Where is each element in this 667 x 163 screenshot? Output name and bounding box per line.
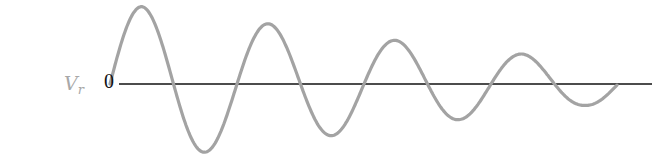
y-axis-label: Vr [64, 72, 84, 97]
chart-canvas [0, 0, 667, 163]
zero-tick-label: 0 [104, 70, 114, 93]
vr-curve [110, 7, 617, 153]
damped-oscillation-chart: Vr 0 [0, 0, 667, 163]
